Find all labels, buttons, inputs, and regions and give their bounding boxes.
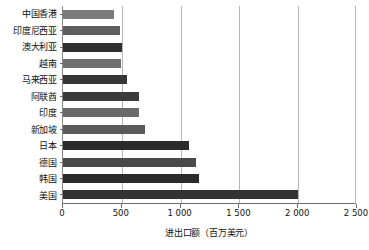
bar-row (63, 170, 355, 186)
category-label: 马来西亚 (0, 72, 60, 89)
bar-row (63, 154, 355, 170)
bar-row (63, 6, 355, 22)
category-axis-labels: 中国香港印度尼西亚澳大利亚越南马来西亚阿联酋印度新加坡日本德国韩国美国 (0, 6, 60, 204)
bar (63, 26, 120, 35)
x-tick-label: 1 000 (167, 208, 191, 218)
category-tick-mark (60, 14, 63, 15)
category-label: 澳大利亚 (0, 39, 60, 56)
bar-row (63, 187, 355, 203)
horizontal-bar-chart: 中国香港印度尼西亚澳大利亚越南马来西亚阿联酋印度新加坡日本德国韩国美国 0500… (0, 0, 369, 250)
bar (63, 59, 121, 68)
category-label: 美国 (0, 188, 60, 205)
category-tick-mark (60, 162, 63, 163)
category-label: 韩国 (0, 171, 60, 188)
plot-area (62, 6, 356, 204)
category-label: 中国香港 (0, 6, 60, 23)
category-tick-mark (60, 79, 63, 80)
category-label: 新加坡 (0, 122, 60, 139)
bar-row (63, 72, 355, 88)
bar-row (63, 88, 355, 104)
x-tick-label: 2 000 (285, 208, 309, 218)
category-label: 阿联酋 (0, 89, 60, 106)
category-label: 越南 (0, 56, 60, 73)
bar-row (63, 39, 355, 55)
x-tick-label: 1 500 (226, 208, 250, 218)
bar (63, 10, 114, 19)
x-tick-label: 0 (59, 208, 64, 218)
category-label: 德国 (0, 155, 60, 172)
x-axis-title: 进出口额（百万美元） (62, 226, 356, 239)
category-tick-mark (60, 178, 63, 179)
x-tick-label: 500 (113, 208, 129, 218)
value-axis-ticks: 05001 0001 5002 0002 500 (62, 204, 356, 218)
bar (63, 92, 139, 101)
category-tick-mark (60, 194, 63, 195)
bar (63, 43, 122, 52)
bar-row (63, 137, 355, 153)
bar-row (63, 22, 355, 38)
category-tick-mark (60, 129, 63, 130)
bar (63, 141, 189, 150)
category-label: 日本 (0, 138, 60, 155)
bar-row (63, 55, 355, 71)
category-tick-mark (60, 47, 63, 48)
bar (63, 190, 298, 199)
category-tick-mark (60, 145, 63, 146)
category-label: 印度 (0, 105, 60, 122)
bar (63, 125, 145, 134)
bar (63, 108, 139, 117)
bar (63, 158, 196, 167)
bars-layer (63, 6, 355, 203)
x-tick-label: 2 500 (344, 208, 368, 218)
category-tick-mark (60, 63, 63, 64)
category-tick-mark (60, 30, 63, 31)
bar (63, 75, 127, 84)
category-label: 印度尼西亚 (0, 23, 60, 40)
bar (63, 174, 199, 183)
bar-row (63, 105, 355, 121)
bar-row (63, 121, 355, 137)
category-tick-mark (60, 96, 63, 97)
category-tick-mark (60, 112, 63, 113)
